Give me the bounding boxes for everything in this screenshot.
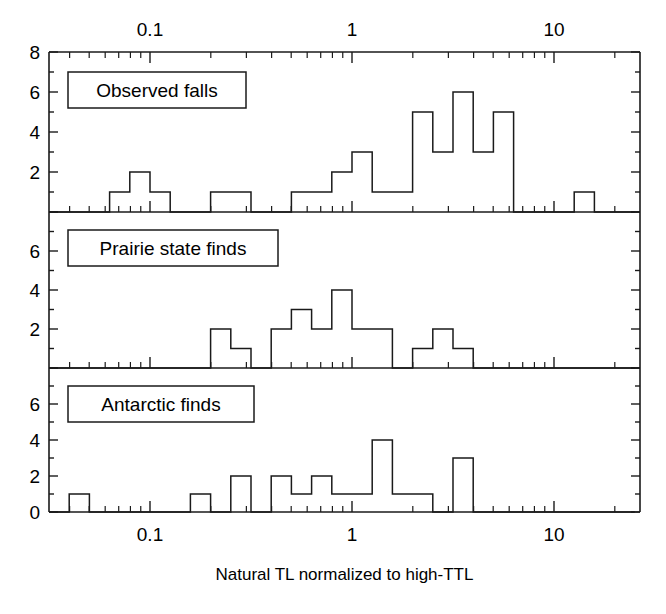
- y-tick-label-0-2: 2: [29, 162, 40, 183]
- y-tick-label-1-4: 4: [29, 280, 40, 301]
- histogram-figure: 2468Observed falls246Prairie state finds…: [0, 0, 666, 614]
- x-tick-label-top-1: 1: [347, 19, 358, 40]
- y-tick-label-0-6: 6: [29, 82, 40, 103]
- y-tick-label-1-6: 6: [29, 241, 40, 262]
- x-tick-label-top-0: 0.1: [137, 19, 163, 40]
- x-axis-title: Natural TL normalized to high-TTL: [216, 565, 474, 584]
- y-tick-label-2-0: 0: [29, 502, 40, 523]
- y-tick-label-1-2: 2: [29, 319, 40, 340]
- histogram-outline-2: [49, 440, 635, 512]
- y-tick-label-0-4: 4: [29, 122, 40, 143]
- histogram-outline-0: [49, 92, 635, 212]
- x-tick-label-top-2: 10: [543, 19, 564, 40]
- x-tick-label-bottom-0: 0.1: [137, 524, 163, 545]
- panel-label-1: Prairie state finds: [100, 238, 247, 259]
- x-tick-label-bottom-1: 1: [347, 524, 358, 545]
- panel-label-0: Observed falls: [96, 80, 217, 101]
- chart-canvas: 2468Observed falls246Prairie state finds…: [0, 0, 666, 614]
- y-tick-label-2-4: 4: [29, 430, 40, 451]
- x-tick-label-bottom-2: 10: [543, 524, 564, 545]
- y-tick-label-0-8: 8: [29, 42, 40, 63]
- histogram-outline-1: [49, 290, 635, 368]
- y-tick-label-2-6: 6: [29, 394, 40, 415]
- panel-label-2: Antarctic finds: [101, 394, 220, 415]
- y-tick-label-2-2: 2: [29, 466, 40, 487]
